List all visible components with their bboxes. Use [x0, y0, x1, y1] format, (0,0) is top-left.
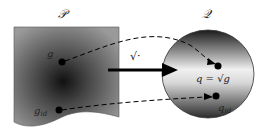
- map-label: √·: [130, 50, 141, 63]
- right-space-label: 𝒬: [202, 7, 213, 21]
- point-g-label: g: [47, 48, 53, 59]
- point-q: [215, 63, 222, 70]
- point-q-label: q = √g: [196, 73, 230, 84]
- left-manifold-sheet: [14, 27, 119, 126]
- left-space-label: 𝒫: [58, 7, 70, 21]
- diagram-canvas: 𝒫 𝒬 √· g gid q = √g qid: [0, 0, 272, 139]
- point-gid: [56, 107, 63, 114]
- point-qid: [213, 93, 220, 100]
- point-g: [59, 59, 66, 66]
